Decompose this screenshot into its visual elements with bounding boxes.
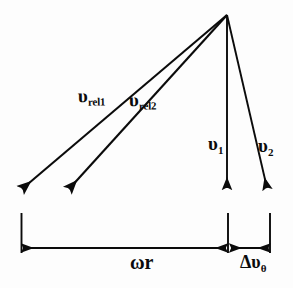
label-omega-r-base: ωr (130, 251, 154, 273)
label-v-2-subscript: 2 (268, 146, 273, 158)
diagram-canvas (0, 0, 293, 288)
label-v-rel2: υrel2 (129, 90, 157, 112)
label-v-2: υ2 (258, 136, 273, 158)
label-v-rel1-subscript: rel1 (88, 95, 106, 107)
label-omega-r: ωr (130, 252, 154, 275)
label-delta-v-theta-base: Δυ (240, 252, 261, 272)
label-v-1: υ1 (208, 134, 223, 156)
label-v-1-base: υ (208, 133, 218, 154)
dimension-group (22, 213, 271, 253)
label-delta-v-theta-subscript: θ (261, 262, 267, 274)
vector-v-rel1 (22, 15, 227, 189)
label-v-rel1: υrel1 (78, 86, 106, 108)
label-v-rel1-base: υ (78, 85, 88, 106)
label-v-2-base: υ (258, 135, 268, 156)
velocity-vector-diagram: υrel1 υrel2 υ1 υ2 ωr Δυθ (0, 0, 293, 288)
vector-v-2 (227, 15, 267, 188)
label-v-rel2-base: υ (129, 89, 139, 110)
label-v-rel2-subscript: rel2 (139, 99, 157, 111)
label-delta-v-theta: Δυθ (240, 253, 266, 274)
label-v-1-subscript: 1 (218, 144, 223, 156)
